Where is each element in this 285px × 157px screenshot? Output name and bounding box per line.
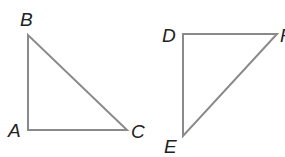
label-b: B — [20, 9, 33, 30]
geometry-diagram: A B C D E F — [0, 0, 285, 157]
label-a: A — [7, 120, 21, 141]
label-f: F — [280, 25, 285, 46]
label-c: C — [131, 121, 145, 142]
triangle-def — [183, 34, 277, 136]
triangle-abc — [28, 35, 127, 130]
label-e: E — [164, 136, 177, 157]
label-d: D — [162, 25, 176, 46]
